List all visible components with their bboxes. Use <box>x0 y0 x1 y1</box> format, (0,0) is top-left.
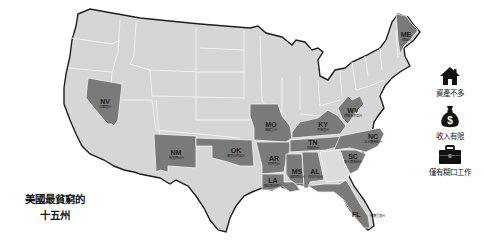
briefcase-icon <box>438 145 462 165</box>
legend-work-label: 僅有糊口工作 <box>418 166 482 177</box>
legend-income-label: 收入有限 <box>418 130 482 141</box>
map-title: 美國最貧窮的 十五州 <box>14 191 96 223</box>
state-me <box>396 14 418 54</box>
title-line-2: 十五州 <box>14 207 96 223</box>
money-bag-icon: $ <box>439 105 461 129</box>
legend-work: 僅有糊口工作 <box>418 145 482 177</box>
title-line-1: 美國最貧窮的 <box>14 191 96 207</box>
svg-text:$: $ <box>447 115 453 126</box>
house-icon <box>439 66 461 86</box>
legend-assets: 資產不多 <box>418 66 482 98</box>
legend-assets-label: 資產不多 <box>418 87 482 98</box>
legend-income: $ 收入有限 <box>418 105 482 141</box>
state-nm <box>154 134 196 172</box>
